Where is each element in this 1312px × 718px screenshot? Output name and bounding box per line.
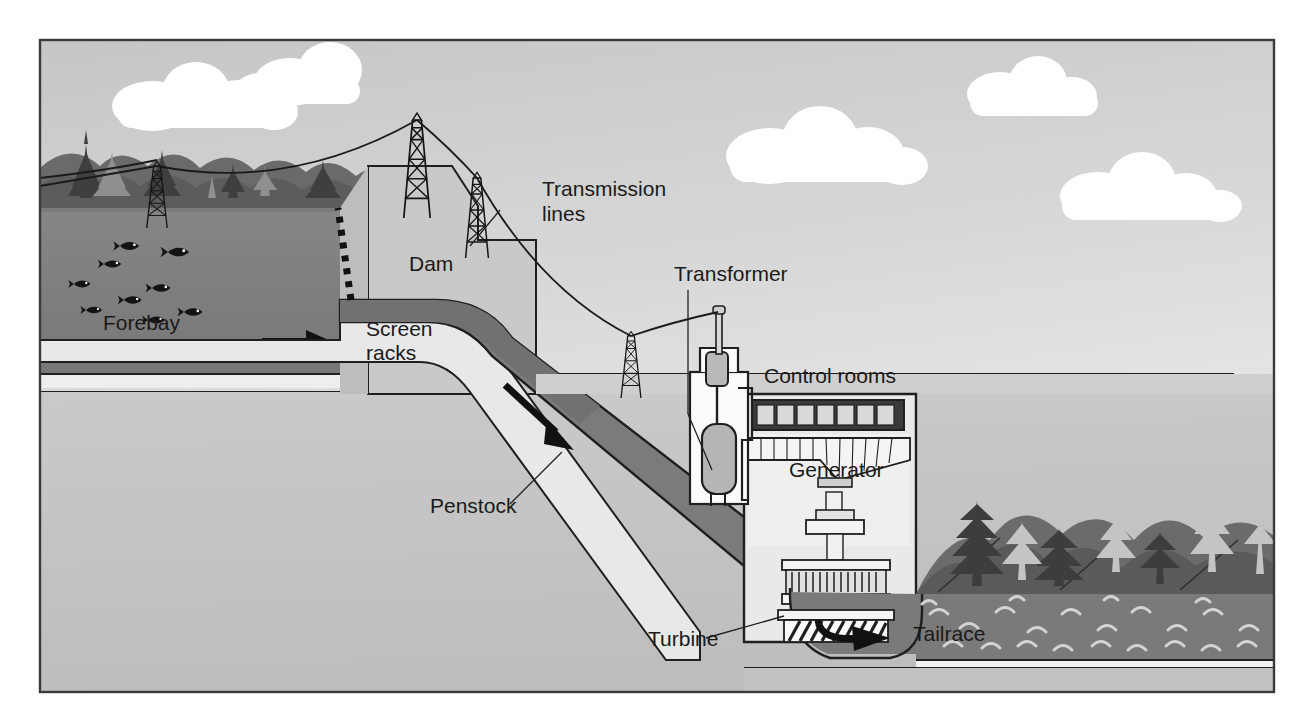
control-room-windows (757, 405, 894, 425)
tailrace-bed-band (916, 660, 1274, 668)
label-transmission-line1: Transmission (542, 177, 666, 200)
label-penstock: Penstock (430, 494, 517, 517)
label-transformer: Transformer (674, 262, 788, 285)
label-transmission-line2: lines (542, 202, 585, 225)
label-screen-racks-line1: Screen (366, 317, 433, 340)
label-control-rooms: Control rooms (764, 364, 896, 387)
label-turbine: Turbine (648, 627, 718, 650)
label-generator: Generator (789, 458, 884, 481)
label-tailrace: Tailrace (913, 622, 985, 645)
control-rooms-band (752, 400, 904, 430)
label-screen-racks-line2: racks (366, 341, 416, 364)
label-dam: Dam (409, 252, 453, 275)
downstream-ground-band (536, 374, 1274, 394)
label-forebay: Forebay (103, 311, 181, 334)
diagram-stage: Forebay Screen racks Dam Transmission li… (0, 0, 1312, 718)
deep-ground-right (744, 668, 1274, 692)
diagram-canvas: Forebay Screen racks Dam Transmission li… (40, 40, 1276, 692)
hydroelectric-dam-diagram: Forebay Screen racks Dam Transmission li… (0, 0, 1312, 718)
